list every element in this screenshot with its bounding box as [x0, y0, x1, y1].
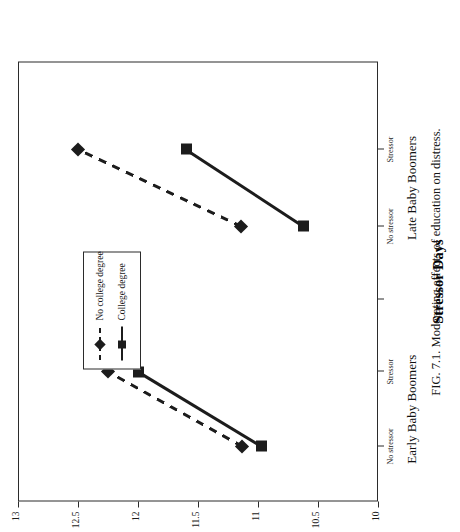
series-college-degree-marker — [181, 144, 192, 155]
y-axis-tick — [198, 501, 199, 507]
x-axis-tick — [378, 370, 384, 371]
x-axis-tick — [378, 298, 384, 299]
chart-legend: No college degreeCollege degree — [83, 251, 141, 369]
y-axis-tick-label: 10 — [371, 511, 381, 532]
legend-marker-swatch — [94, 338, 105, 349]
y-axis-tick — [138, 501, 139, 507]
legend-item: No college degree — [94, 251, 106, 360]
x-axis-tick-label: No stressor — [386, 196, 395, 256]
x-axis-tick-label: Stressor — [386, 119, 395, 179]
y-axis-tick-label: 11 — [251, 511, 261, 532]
legend-label: College degree — [117, 263, 127, 320]
x-axis-tick-label: No stressor — [386, 416, 395, 476]
x-axis-tick — [378, 445, 384, 446]
y-axis-tick — [258, 501, 259, 507]
y-axis-tick — [18, 501, 19, 507]
y-axis-tick — [78, 501, 79, 507]
legend-diamond-icon — [94, 326, 106, 360]
legend-marker-swatch — [118, 340, 126, 348]
figure-caption: FIG. 7.1. Moderating effects of educatio… — [429, 128, 444, 395]
plot-area — [18, 61, 378, 501]
x-axis-tick — [378, 148, 384, 149]
figure-caption-wrapper: FIG. 7.1. Moderating effects of educatio… — [416, 0, 456, 523]
y-axis-tick-label: 13 — [11, 511, 21, 532]
legend-label: No college degree — [95, 251, 105, 320]
series-college-degree-marker — [256, 441, 267, 452]
series-college-degree-marker — [298, 221, 309, 232]
y-axis-tick-label: 12 — [131, 511, 141, 532]
x-axis-tick — [378, 225, 384, 226]
legend-item: College degree — [116, 263, 128, 360]
y-axis-tick — [318, 501, 319, 507]
y-axis-tick-label: 12.5 — [71, 511, 81, 532]
y-axis-tick-label: 10.5 — [311, 511, 321, 532]
y-axis-tick-label: 11.5 — [191, 511, 201, 532]
y-axis-tick — [378, 501, 379, 507]
x-axis-tick-label: Stressor — [386, 341, 395, 401]
legend-square-icon — [116, 326, 128, 360]
